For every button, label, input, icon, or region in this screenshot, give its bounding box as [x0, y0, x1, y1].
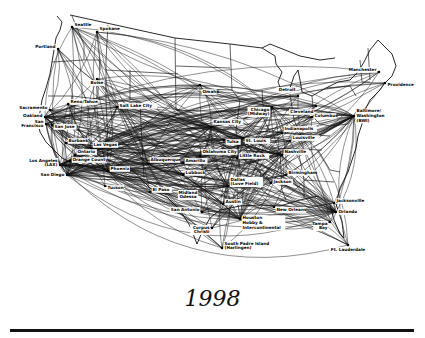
city-marker-icon [315, 105, 317, 107]
city-marker-icon [281, 154, 283, 156]
city-amarillo: Amarillo [182, 158, 208, 164]
city-chicago-midway: Chicago(Midway) [248, 106, 274, 117]
city-label: Christi [194, 229, 210, 234]
city-marker-icon [223, 139, 225, 141]
city-label: Phoenix [111, 166, 130, 171]
city-label: Spokane [100, 26, 120, 31]
route-bwi-tpa [330, 116, 354, 222]
city-south-padre-island-harlingen: South Padre Island(Harlingen) [221, 241, 273, 251]
city-marker-icon [353, 115, 355, 117]
city-marker-icon [201, 211, 203, 213]
city-label: Tucson [108, 185, 124, 190]
city-ft-lauderdale: Ft. Lauderdale [329, 244, 367, 253]
city-label: Jackson [273, 179, 292, 184]
city-label: Intercontinental [243, 225, 282, 230]
city-label: Reno/Tahoe [71, 99, 98, 104]
city-reno-tahoe: Reno/Tahoe [67, 99, 98, 105]
city-san-antonio: San Antonio [170, 207, 203, 213]
city-label: Birmingham [289, 170, 318, 175]
route-bwi-jax [334, 116, 354, 203]
city-marker-icon [378, 71, 380, 73]
city-marker-icon [335, 211, 337, 213]
city-label: Salt Lake City [120, 103, 153, 108]
city-markers: SeattleSpokanePortlandBoiseReno/TahoeSac… [19, 22, 415, 253]
city-label: Seattle [75, 22, 92, 27]
city-jacksonville: Jacksonville [333, 198, 369, 204]
city-marker-icon [107, 170, 109, 172]
city-orange-county: Orange County [69, 157, 108, 163]
city-marker-icon [67, 103, 69, 105]
city-baltimore-washington-bwi: Baltimore/Washington(BWI) [353, 108, 385, 123]
city-los-angeles-lax: Los Angeles(LAX) [28, 158, 61, 168]
city-el-paso: El Paso [149, 187, 172, 193]
state-line [175, 38, 176, 110]
city-marker-icon [182, 162, 184, 164]
city-label: Lubbock [186, 170, 206, 175]
city-label: Ft. Lauderdale [331, 247, 366, 252]
city-label: Francisco [21, 123, 43, 128]
city-label: Nashville [285, 149, 307, 154]
city-marker-icon [236, 157, 238, 159]
city-label: (BWI) [357, 118, 370, 123]
city-boise: Boise [90, 78, 105, 86]
city-label: Boise [91, 80, 104, 85]
city-little-rock: Little Rock [236, 153, 269, 159]
city-marker-icon [147, 163, 149, 165]
state-line [176, 66, 230, 68]
city-seattle: Seattle [71, 22, 94, 28]
city-label: Louisville [293, 135, 315, 140]
city-marker-icon [65, 142, 67, 144]
city-label: (Harlingen) [225, 245, 252, 250]
city-houston-hobby-intercontinental: HoustonHobby &Intercontinental [239, 215, 285, 230]
city-marker-icon [44, 116, 46, 118]
city-marker-icon [271, 106, 273, 108]
city-label: (Midway) [248, 111, 270, 116]
city-marker-icon [59, 164, 61, 166]
city-marker-icon [96, 31, 98, 33]
city-marker-icon [273, 206, 275, 208]
city-marker-icon [149, 191, 151, 193]
city-marker-icon [69, 160, 71, 162]
city-st-louis: St. Louis [242, 137, 270, 144]
city-tucson: Tucson [104, 185, 124, 191]
city-manchester: Manchester [349, 67, 380, 73]
city-label: Oklahoma City [203, 149, 238, 154]
city-label: Kansas City [214, 119, 242, 124]
city-label: Las Vegas [94, 142, 118, 147]
city-label: Austin [226, 199, 241, 204]
city-providence: Providence [384, 82, 415, 88]
city-label: San Diego [41, 172, 65, 177]
city-tampa-bay: TampaBay [312, 221, 331, 231]
city-label: St. Louis [246, 138, 267, 143]
city-label: Jacksonville [336, 198, 365, 203]
city-marker-icon [333, 202, 335, 204]
horizontal-rule [10, 329, 414, 332]
city-phoenix: Phoenix [107, 166, 130, 172]
city-label: Providence [388, 82, 414, 87]
city-marker-icon [199, 84, 201, 86]
city-label: Odessa [179, 194, 196, 199]
city-marker-icon [51, 124, 53, 126]
city-label: San Antonio [171, 207, 200, 212]
city-marker-icon [49, 109, 51, 111]
city-marker-icon [289, 140, 291, 142]
city-sacramento: Sacramento [19, 105, 51, 111]
city-marker-icon [281, 132, 283, 134]
city-label: Oakland [23, 113, 42, 118]
city-birmingham: Birmingham [285, 170, 318, 176]
city-label: New Orleans [277, 207, 307, 212]
city-marker-icon [57, 48, 59, 50]
route-mco-san [67, 175, 336, 221]
city-marker-icon [270, 182, 272, 184]
city-midland-odessa: MidlandOdessa [178, 190, 198, 200]
city-label: San Jose [55, 124, 75, 129]
city-marker-icon [210, 126, 212, 128]
city-burbank: Burbank [65, 138, 89, 144]
city-label: Portland [35, 44, 55, 49]
city-nashville: Nashville [281, 149, 309, 156]
city-marker-icon [45, 123, 47, 125]
city-marker-icon [285, 174, 287, 176]
city-marker-icon [182, 174, 184, 176]
city-label: Ontario [78, 149, 96, 154]
city-corpus-christi: CorpusChristi [190, 225, 213, 235]
